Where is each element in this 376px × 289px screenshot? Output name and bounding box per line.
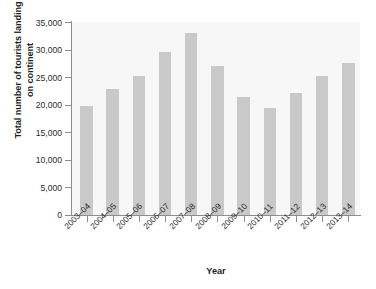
y-tick-label-0: 0 (14, 210, 62, 220)
x-tick-mark-2009-10 (244, 216, 245, 222)
y-tick-label-20000: 20,000 (14, 100, 62, 110)
bar-2011-12 (290, 93, 303, 215)
bar-2012-13 (316, 76, 329, 215)
x-tick-mark-2004-05 (113, 216, 114, 222)
plot-area (72, 22, 360, 215)
x-tick-mark-2007-08 (191, 216, 192, 222)
y-tick-label-25000: 25,000 (14, 73, 62, 83)
x-tick-mark-2003-04 (87, 216, 88, 222)
bar-2010-11 (264, 108, 277, 215)
bar-chart-figure: Total number of tourists landing on cont… (0, 0, 376, 289)
x-tick-mark-2011-12 (296, 216, 297, 222)
x-tick-mark-2013-14 (348, 216, 349, 222)
bar-2007-08 (185, 33, 198, 215)
x-tick-mark-2010-11 (270, 216, 271, 222)
bar-2004-05 (106, 89, 119, 215)
x-tick-mark-2012-13 (322, 216, 323, 222)
bar-2006-07 (159, 52, 172, 215)
x-axis-title: Year (72, 266, 360, 276)
bar-2005-06 (133, 76, 146, 215)
x-tick-mark-2005-06 (139, 216, 140, 222)
y-tick-label-30000: 30,000 (14, 45, 62, 55)
y-tick-label-10000: 10,000 (14, 155, 62, 165)
bar-2009-10 (237, 97, 250, 216)
y-tick-label-35000: 35,000 (14, 18, 62, 28)
bar-2008-09 (211, 66, 224, 215)
y-tick-label-5000: 5,000 (14, 183, 62, 193)
y-axis-line (71, 21, 72, 216)
bar-2013-14 (342, 63, 355, 215)
x-tick-mark-2008-09 (217, 216, 218, 222)
y-tick-label-15000: 15,000 (14, 128, 62, 138)
bar-2003-04 (80, 106, 93, 215)
x-tick-mark-2006-07 (165, 216, 166, 222)
